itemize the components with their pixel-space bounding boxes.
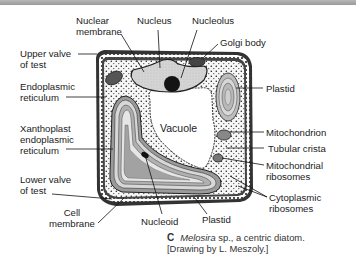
caption-credit: [Drawing by L. Meszoly.]	[167, 243, 305, 254]
label-lower-valve: Lower valve of test	[20, 174, 71, 196]
label-vacuole: Vacuole	[160, 123, 197, 134]
figure-caption: CMelosira sp., a centric diatom. [Drawin…	[167, 232, 305, 254]
label-golgi-body: Golgi body	[220, 37, 266, 48]
mitochondrion-shape	[217, 130, 231, 140]
label-nucleus: Nucleus	[137, 15, 172, 26]
caption-letter: C	[167, 232, 174, 243]
label-cell-membrane: Cell membrane	[49, 207, 95, 229]
label-mitochondrial-ribosomes: Mitochondrial ribosomes	[266, 160, 323, 182]
label-upper-valve: Upper valve of test	[20, 48, 71, 70]
label-nucleolus: Nucleolus	[192, 15, 234, 26]
label-endoplasmic-reticulum: Endoplasmic reticulum	[20, 81, 75, 103]
label-cytoplasmic-ribosomes: Cytoplasmic ribosomes	[269, 192, 321, 214]
golgi-right	[189, 58, 205, 67]
label-mitochondrion: Mitochondrion	[266, 127, 326, 138]
label-nucleoid: Nucleoid	[141, 216, 178, 227]
mitochondrion-small	[213, 154, 223, 162]
caption-description: sp., a centric diatom.	[216, 232, 305, 243]
label-plastid-bottom: Plastid	[202, 214, 231, 225]
label-xanthoplast-er: Xanthoplast endoplasmic reticulum	[20, 123, 74, 156]
nucleolus-shape	[164, 76, 180, 92]
label-tubular-crista: Tubular crista	[268, 143, 326, 154]
caption-genus: Melosira	[180, 232, 215, 243]
label-plastid-right: Plastid	[266, 83, 295, 94]
label-nuclear-membrane: Nuclear membrane	[76, 15, 122, 37]
right-plastid	[216, 73, 240, 121]
